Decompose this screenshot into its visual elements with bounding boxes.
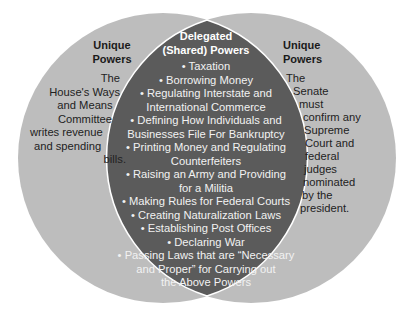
left-body-line: The	[40, 72, 120, 86]
list-item: • Printing Money and Regulating	[110, 141, 302, 155]
list-item: • Passing Laws that are “Necessary	[110, 249, 302, 263]
list-item: • Making Rules for Federal Courts	[110, 195, 302, 209]
left-body-line: writes revenue	[30, 126, 120, 140]
list-item: Counterfeiters	[110, 155, 302, 169]
center-title-line2: (Shared) Powers	[110, 43, 302, 57]
right-body: The Senate must confirm any Supreme Cour…	[300, 72, 380, 215]
list-item: • Establishing Post Offices	[110, 222, 302, 236]
list-item: • Creating Naturalization Laws	[110, 209, 302, 223]
list-item: • Taxation	[110, 60, 302, 74]
right-body-line: by the	[302, 189, 380, 202]
right-body-line: must	[299, 98, 380, 111]
right-body-line: judges	[304, 163, 380, 176]
list-item: • Defining How Individuals and	[110, 114, 302, 128]
list-item: Businesses File For Bankruptcy	[110, 128, 302, 142]
right-body-line: Supreme	[304, 124, 380, 137]
list-item: for a Militia	[110, 182, 302, 196]
list-item: • Declaring War	[110, 236, 302, 250]
left-body-line: and spending	[34, 140, 120, 154]
left-body: The House's Ways and Means Committee wri…	[40, 72, 120, 167]
list-item: International Commerce	[110, 101, 302, 115]
left-body-line: and Means	[40, 99, 120, 113]
right-body-line: Court and	[305, 137, 380, 150]
right-body-line: nominated	[303, 176, 380, 189]
right-body-line: Senate	[293, 85, 380, 98]
list-item: • Borrowing Money	[110, 74, 302, 88]
shared-powers: Delegated (Shared) Powers • Taxation • B…	[110, 29, 302, 290]
list-item: • Regulating Interstate and	[110, 87, 302, 101]
list-item: and Proper” for Carrying out	[110, 263, 302, 277]
left-body-line: House's Ways	[40, 86, 120, 100]
left-body-line: Committee	[40, 113, 120, 127]
right-body-line: president.	[300, 202, 380, 215]
right-body-line: confirm any	[303, 111, 380, 124]
list-item: the Above Powers	[110, 276, 302, 290]
shared-powers-list: • Taxation • Borrowing Money • Regulatin…	[110, 60, 302, 290]
center-title-line1: Delegated	[110, 29, 302, 43]
right-body-line: federal	[305, 150, 380, 163]
list-item: • Raising an Army and Providing	[110, 168, 302, 182]
